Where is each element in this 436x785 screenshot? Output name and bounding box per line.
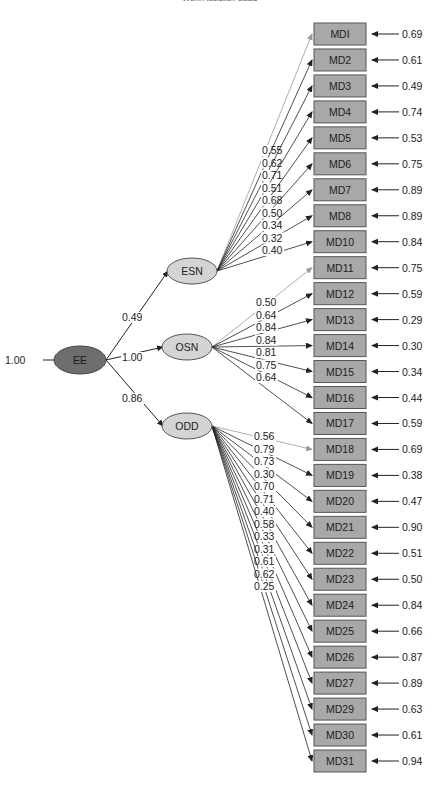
indicator-mdi: MDI0.69 <box>314 23 423 45</box>
loading-label: 0.81 <box>255 346 278 358</box>
error-variance: 0.30 <box>402 340 423 352</box>
loading-label: 0.40 <box>261 244 284 256</box>
indicator-md26: MD260.87 <box>314 646 423 668</box>
indicator-label: MD29 <box>326 703 354 715</box>
indicator-md20: MD200.47 <box>314 490 423 512</box>
indicator-md27: MD270.89 <box>314 672 423 694</box>
indicator-md15: MD150.34 <box>314 361 423 383</box>
indicator-label: MD16 <box>326 392 354 404</box>
indicator-md22: MD220.51 <box>314 542 423 564</box>
indicator-label: MD17 <box>326 417 354 429</box>
sem-diagram: 0.550.620.710.510.680.500.340.320.400.50… <box>0 0 436 785</box>
error-variance: 0.53 <box>402 132 423 144</box>
indicator-label: MD8 <box>329 210 351 222</box>
indicator-label: MD23 <box>326 573 354 585</box>
indicator-md29: MD290.63 <box>314 698 423 720</box>
indicator-label: MD31 <box>326 755 354 767</box>
loading-label: 0.71 <box>253 493 276 505</box>
loading-label: 0.32 <box>261 232 284 244</box>
loading-label: 0.40 <box>253 505 276 517</box>
loading-label: 0.62 <box>253 568 276 580</box>
indicator-label: MD11 <box>326 262 353 274</box>
indicator-label: MD19 <box>326 469 354 481</box>
indicator-label: MD4 <box>329 106 351 118</box>
error-variance: 0.69 <box>402 28 423 40</box>
loading-label: 0.64 <box>255 309 278 321</box>
loading-label: 0.71 <box>261 169 284 181</box>
indicator-md18: MD180.69 <box>314 438 423 460</box>
svg-text:0.86: 0.86 <box>122 392 143 404</box>
loading-label: 0.51 <box>261 182 284 194</box>
indicator-md5: MD50.53 <box>314 127 423 149</box>
error-variance: 0.63 <box>402 703 423 715</box>
factor-odd: ODD <box>162 413 212 439</box>
indicator-md8: MD80.89 <box>314 205 423 227</box>
indicator-md12: MD120.59 <box>314 283 423 305</box>
indicator-label: MD13 <box>326 314 354 326</box>
svg-text:0.64: 0.64 <box>256 309 277 321</box>
loading-label: 0.84 <box>255 321 278 333</box>
indicator-md21: MD210.90 <box>314 516 423 538</box>
indicator-label: MD12 <box>326 288 354 300</box>
error-variance: 0.49 <box>402 80 423 92</box>
indicator-md13: MD130.29 <box>314 309 423 331</box>
error-variance: 0.29 <box>402 314 423 326</box>
svg-text:0.71: 0.71 <box>254 493 275 505</box>
nodes-layer: MDI0.69MD20.61MD30.49MD40.74MD50.53MD60.… <box>5 23 423 772</box>
error-variance: 0.44 <box>402 392 423 404</box>
indicator-label: MD25 <box>326 625 354 637</box>
svg-text:0.75: 0.75 <box>256 359 277 371</box>
structural-coefficient: 0.49 <box>121 311 145 323</box>
svg-text:0.40: 0.40 <box>262 244 283 256</box>
indicator-label: MD24 <box>326 599 354 611</box>
svg-text:0.50: 0.50 <box>262 207 283 219</box>
indicator-md3: MD30.49 <box>314 75 423 97</box>
root-variance: 1.00 <box>5 354 26 366</box>
error-variance: 0.84 <box>402 599 423 611</box>
svg-text:0.81: 0.81 <box>256 346 277 358</box>
error-variance: 0.74 <box>402 106 423 118</box>
indicator-md11: MD110.75 <box>314 257 423 279</box>
indicator-md24: MD240.84 <box>314 594 423 616</box>
error-variance: 0.87 <box>402 651 423 663</box>
svg-text:0.64: 0.64 <box>256 371 277 383</box>
loading-label: 0.73 <box>253 455 276 467</box>
svg-text:ESN: ESN <box>181 265 203 277</box>
svg-text:0.33: 0.33 <box>254 530 275 542</box>
loading-label: 0.68 <box>261 194 284 206</box>
indicator-md17: MD170.59 <box>314 412 423 434</box>
error-variance: 0.89 <box>402 210 423 222</box>
indicator-md25: MD250.66 <box>314 620 423 642</box>
indicator-label: MD10 <box>326 236 354 248</box>
svg-text:0.32: 0.32 <box>262 232 283 244</box>
svg-text:0.84: 0.84 <box>256 321 277 333</box>
svg-text:0.49: 0.49 <box>122 311 143 323</box>
error-variance: 0.75 <box>402 158 423 170</box>
indicator-md31: MD310.94 <box>314 750 423 772</box>
error-variance: 0.59 <box>402 417 423 429</box>
indicator-label: MD7 <box>329 184 351 196</box>
svg-text:0.56: 0.56 <box>254 430 275 442</box>
error-variance: 0.47 <box>402 495 423 507</box>
error-variance: 0.34 <box>402 366 423 378</box>
svg-text:0.34: 0.34 <box>262 219 283 231</box>
structural-coefficient: 1.00 <box>121 351 145 363</box>
error-variance: 0.61 <box>402 729 423 741</box>
error-variance: 0.50 <box>402 573 423 585</box>
indicator-md6: MD60.75 <box>314 153 423 175</box>
svg-text:0.50: 0.50 <box>256 296 277 308</box>
indicator-label: MD21 <box>326 521 354 533</box>
indicator-label: MD22 <box>326 547 354 559</box>
indicator-md7: MD70.89 <box>314 179 423 201</box>
svg-text:0.73: 0.73 <box>254 455 275 467</box>
svg-text:0.84: 0.84 <box>256 334 277 346</box>
error-variance: 0.89 <box>402 184 423 196</box>
indicator-label: MD30 <box>326 729 354 741</box>
loading-label: 0.64 <box>255 371 278 383</box>
svg-text:1.00: 1.00 <box>122 351 143 363</box>
error-variance: 0.51 <box>402 547 423 559</box>
svg-text:0.70: 0.70 <box>254 480 275 492</box>
indicator-label: MD6 <box>329 158 351 170</box>
error-variance: 0.84 <box>402 236 423 248</box>
error-variance: 0.75 <box>402 262 423 274</box>
